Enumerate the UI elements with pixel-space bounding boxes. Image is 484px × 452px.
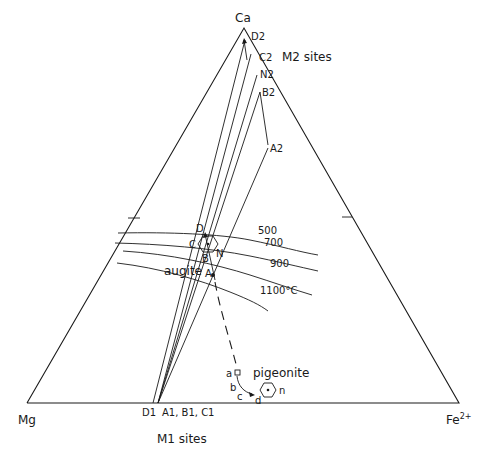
label-a1-b1-c1: A1, B1, C1 xyxy=(162,407,215,418)
augite-point-n xyxy=(207,243,210,246)
label-d2: D2 xyxy=(251,31,265,42)
pyroxene-ternary-diagram: Ca Mg Fe2+ M2 sites M1 sites D2 C2 N2 B2… xyxy=(0,0,484,452)
tie-line-d xyxy=(153,40,245,403)
label-b2: B2 xyxy=(262,87,275,98)
label-a: A xyxy=(205,268,212,279)
pigeonite-label: pigeonite xyxy=(253,366,309,380)
isotherm-label-700: 700 xyxy=(264,237,283,248)
label-c: C xyxy=(189,239,196,250)
m2-sites-label: M2 sites xyxy=(282,50,332,64)
m1-sites-label: M1 sites xyxy=(157,432,207,446)
label-a2: A2 xyxy=(270,143,283,154)
isotherm-label-500: 500 xyxy=(258,225,277,236)
label-d: D xyxy=(196,223,204,234)
pigeonite-point-n xyxy=(267,389,270,392)
label-b: B xyxy=(202,253,209,264)
augite-label: augite xyxy=(164,264,202,278)
vertex-label-fe: Fe2+ xyxy=(446,412,471,427)
isotherm-label-900: 900 xyxy=(270,258,289,269)
label-n2: N2 xyxy=(260,69,274,80)
fe-superscript: 2+ xyxy=(460,412,472,421)
label-pig-d: d xyxy=(255,395,261,406)
label-n: N xyxy=(216,248,223,259)
label-pig-n: n xyxy=(279,385,285,396)
pigeonite-dashed-line xyxy=(215,282,237,368)
label-d1: D1 xyxy=(142,407,156,418)
isotherm-label-1100: 1100°C xyxy=(260,285,297,296)
tie-line-c xyxy=(158,54,251,403)
m2-arrowhead xyxy=(242,38,247,44)
fe-base: Fe xyxy=(446,413,460,427)
vertex-label-mg: Mg xyxy=(18,413,36,427)
m2-trend-line xyxy=(260,92,268,145)
label-pig-c: c xyxy=(237,391,243,402)
label-pig-a: a xyxy=(226,368,232,379)
label-pig-b: b xyxy=(230,382,236,393)
tie-line-b xyxy=(158,92,260,403)
label-c2: C2 xyxy=(259,52,272,63)
vertex-label-ca: Ca xyxy=(235,11,251,25)
pigeonite-point-a xyxy=(235,370,240,375)
